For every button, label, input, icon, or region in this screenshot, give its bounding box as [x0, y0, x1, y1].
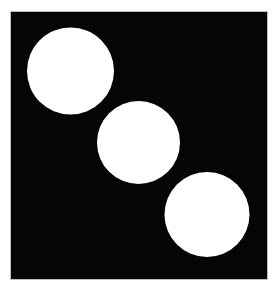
lower-right-circle [165, 172, 250, 257]
upper-left-circle [27, 28, 114, 115]
figure-canvas: Three white circles arranged diagonally … [0, 0, 278, 292]
center-circle [97, 101, 180, 184]
three-circles-illustration: Three white circles arranged diagonally … [0, 0, 278, 292]
